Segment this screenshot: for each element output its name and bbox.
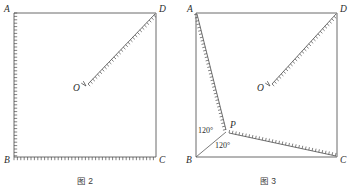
segment-AP-tick <box>211 83 214 84</box>
segment-OD-tick <box>274 81 276 83</box>
segment-PC-tick <box>279 141 280 144</box>
segment-PC-tick <box>259 136 260 139</box>
segment-AP-tick <box>205 57 208 58</box>
segment-PC-tick <box>262 137 263 140</box>
vertex-label-b: B <box>186 155 192 165</box>
segment-PC-tick <box>269 139 270 142</box>
segment-PC-tick <box>335 153 336 156</box>
segment-OD-tick <box>288 66 290 68</box>
segment-OD-tick <box>133 37 135 39</box>
segment-OD-spine <box>88 14 155 84</box>
segment-OD-tick <box>104 67 106 69</box>
segment-PC-tick <box>229 130 230 133</box>
segment-AP-tick <box>216 103 219 104</box>
segment-AP-tick <box>202 47 205 48</box>
segment-AP-tick <box>213 90 216 91</box>
segment-OD-tick <box>334 16 336 18</box>
segment-PC-tick <box>272 139 273 142</box>
segment-PC-tick <box>256 136 257 139</box>
angle-APB-label: 120° <box>198 126 213 135</box>
figure-2-group: ADBCO图 2 <box>3 4 166 186</box>
segment-PC-tick <box>252 135 253 138</box>
segment-AP-tick <box>220 120 223 121</box>
segment-OD-tick <box>295 59 297 61</box>
segment-OD-tick <box>290 64 292 66</box>
segment-AP-tick <box>208 70 211 71</box>
segment-OD-tick <box>95 77 97 79</box>
segment-OD-tick <box>123 47 125 49</box>
segment-AP-tick <box>212 87 215 88</box>
segment-OD-tick <box>140 30 142 32</box>
segment-OD-tick <box>327 24 329 26</box>
vertex-label-c: C <box>159 155 166 165</box>
segment-OD-tick <box>277 79 279 81</box>
vertex-label-a: A <box>186 4 193 14</box>
segment-PC-tick <box>246 134 247 137</box>
segment-OD-tick <box>332 19 334 21</box>
segment-PC-tick <box>289 143 290 146</box>
segment-AP-tick <box>201 40 204 41</box>
vertex-label-d: D <box>339 4 347 14</box>
segment-AP-tick <box>194 14 197 15</box>
segment-PC-tick <box>276 140 277 143</box>
segment-OD-tick <box>135 35 137 37</box>
segment-AP-tick <box>216 100 219 101</box>
segment-OD-tick <box>322 29 324 31</box>
segment-OD-tick <box>306 46 308 48</box>
segment-PC-tick <box>232 131 233 134</box>
segment-PC-tick <box>249 134 250 137</box>
segment-OD-tick <box>286 69 288 71</box>
edge-AB <box>14 13 17 157</box>
segment-PC-tick <box>329 152 330 155</box>
vertex-label-o: O <box>73 83 80 93</box>
segment-OD <box>272 14 336 86</box>
segment-AP-tick <box>218 110 221 111</box>
segment-OD-tick <box>147 23 149 25</box>
segment-AP-tick <box>203 50 206 51</box>
segment-AP-tick <box>206 60 209 61</box>
segment-PC-tick <box>242 133 243 136</box>
vertex-label-d: D <box>158 4 166 14</box>
segment-OD-tick <box>88 84 90 86</box>
caption-fig2: 图 2 <box>77 176 93 186</box>
segment-PC-tick <box>299 145 300 148</box>
geometry-svg-canvas: ADBCO图 2 ADBCPO120°120°图 3 <box>0 0 356 190</box>
segment-PC-tick <box>322 150 323 153</box>
edge-BC <box>14 157 156 160</box>
segment-OD-tick <box>320 31 322 33</box>
segment-OD-tick <box>93 79 95 81</box>
segment-OD-tick <box>318 34 320 36</box>
segment-OD-tick <box>316 36 318 38</box>
segment-PC-tick <box>332 152 333 155</box>
vertex-label-b: B <box>4 155 10 165</box>
segment-OD <box>88 14 156 86</box>
segment-AP-tick <box>221 123 224 124</box>
segment-AP-tick <box>198 30 201 31</box>
segment-PC-spine <box>229 133 336 156</box>
figure-3-group: ADBCPO120°120°图 3 <box>186 4 347 186</box>
segment-OD-tick <box>112 59 114 61</box>
segment-OD-tick <box>325 26 327 28</box>
segment-OD-tick <box>293 61 295 63</box>
segment-OD-tick <box>311 41 313 43</box>
segment-OD-tick <box>126 45 128 47</box>
segment-OD-tick <box>279 76 281 78</box>
caption-fig3: 图 3 <box>260 176 276 186</box>
segment-PC-tick <box>315 149 316 152</box>
segment-AP-tick <box>199 34 202 35</box>
segment-AP-tick <box>197 27 200 28</box>
vertex-label-c: C <box>340 155 347 165</box>
segment-AP-tick <box>222 126 225 127</box>
segment-AP-tick <box>197 24 200 25</box>
segment-AP-tick <box>215 96 218 97</box>
segment-PC <box>229 130 336 156</box>
segment-OD-tick <box>128 42 130 44</box>
segment-AP-tick <box>210 77 213 78</box>
segment-OD-tick <box>297 56 299 58</box>
segment-PC-tick <box>266 138 267 141</box>
segment-OD-tick <box>313 39 315 41</box>
segment-AP-spine <box>197 14 226 130</box>
segment-OD-tick <box>302 51 304 53</box>
segment-OD-tick <box>283 71 285 73</box>
segment-AP-tick <box>214 93 217 94</box>
